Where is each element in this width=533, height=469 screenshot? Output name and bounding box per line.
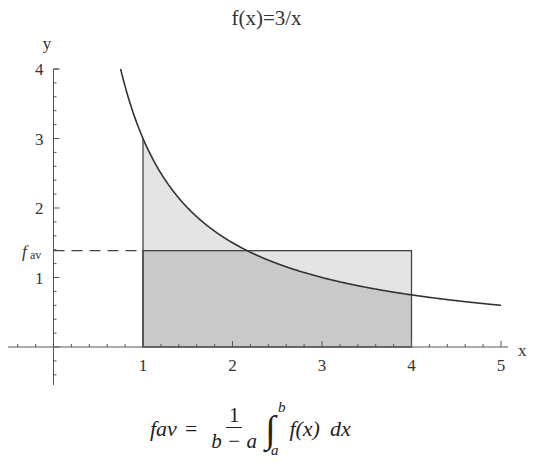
y-tick-label: 2 [35,199,44,218]
x-tick-label: 4 [407,356,416,375]
integral-lower-bound: a [271,443,279,458]
y-tick-label: 4 [35,60,44,79]
y-tick-label: 3 [35,130,44,149]
x-tick-label: 5 [497,356,506,375]
plot-area: 123451234xyfav [0,0,533,469]
formula-dx: dx [330,416,351,442]
x-tick-label: 1 [139,356,148,375]
x-tick-label: 2 [228,356,237,375]
integral-sign: ∫ba [265,410,275,448]
formula-denominator: b − a [211,428,257,454]
formula-numerator: 1 [226,403,243,428]
x-axis-label: x [518,341,527,360]
formula-integrand: f(x) [289,416,320,442]
average-value-formula: fav = 1 b − a ∫ba f(x) dx [150,403,351,454]
x-tick-label: 3 [318,356,327,375]
formula-equals: = [185,416,197,442]
fav-label-subscript: av [30,248,41,262]
formula-fraction: 1 b − a [211,403,257,454]
integral-upper-bound: b [278,400,286,415]
y-tick-label: 1 [35,269,44,288]
fav-label: f [22,242,29,261]
y-axis-label: y [43,34,52,53]
formula-lhs: fav [150,416,177,442]
